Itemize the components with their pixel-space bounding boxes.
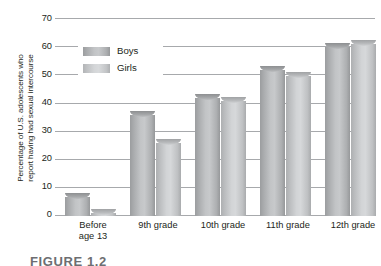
bar-girls-10th-grade (221, 97, 246, 216)
bar-girls-before-age-13 (91, 209, 116, 216)
legend-swatch-girls-icon (83, 64, 110, 73)
x-tick-label-line: 12th grade (321, 220, 381, 231)
x-tick-label-line: 10th grade (191, 220, 255, 231)
y-tick-label: 70 (30, 14, 52, 23)
y-tick-label: 10 (30, 182, 52, 191)
legend-label-girls: Girls (117, 63, 137, 73)
legend-swatch-boys-icon (83, 47, 110, 56)
legend-item-boys: Boys (83, 44, 138, 58)
x-tick-label-line: Before (61, 220, 125, 231)
bar-boys-12th-grade (325, 43, 350, 216)
x-tick-label-12th-grade: 12th grade (321, 220, 381, 231)
x-tick-label-11th-grade: 11th grade (256, 220, 320, 231)
bar-group-10th-grade (195, 18, 251, 216)
bar-boys-11th-grade (260, 66, 285, 216)
y-tick-label: 50 (30, 70, 52, 79)
x-axis-labels: Before age 13 9th grade 10th grade 11th … (55, 220, 375, 254)
y-tick-label: 20 (30, 154, 52, 163)
legend-label-boys: Boys (117, 46, 138, 56)
bar-girls-11th-grade (286, 72, 311, 216)
chart-legend: Boys Girls (83, 44, 138, 78)
bar-group-12th-grade (325, 18, 381, 216)
bar-boys-9th-grade (130, 111, 155, 216)
figure-chart: Percentage of U.S. adolescents who repor… (0, 0, 381, 266)
bar-group-11th-grade (260, 18, 316, 216)
bar-girls-9th-grade (156, 139, 181, 216)
bar-girls-12th-grade (351, 40, 376, 216)
x-tick-label-line: 11th grade (256, 220, 320, 231)
x-tick-label-line: age 13 (61, 231, 125, 242)
figure-caption: FIGURE 1.2 (30, 255, 107, 266)
y-tick-label: 30 (30, 126, 52, 135)
x-tick-label-10th-grade: 10th grade (191, 220, 255, 231)
x-tick-label-before-age-13: Before age 13 (61, 220, 125, 243)
bar-boys-before-age-13 (65, 193, 90, 216)
x-tick-label-line: 9th grade (126, 220, 190, 231)
y-tick-label: 60 (30, 42, 52, 51)
x-tick-label-9th-grade: 9th grade (126, 220, 190, 231)
bar-boys-10th-grade (195, 94, 220, 216)
y-tick-label: 0 (30, 210, 52, 219)
legend-item-girls: Girls (83, 61, 138, 75)
y-axis-title-line-1: Percentage of U.S. adolescents who (16, 54, 26, 182)
y-tick-label: 40 (30, 98, 52, 107)
